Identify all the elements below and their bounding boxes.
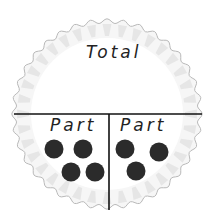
part-1-label: Part bbox=[50, 115, 96, 135]
counter bbox=[86, 163, 105, 182]
counter bbox=[74, 140, 93, 159]
total-label: Total bbox=[86, 42, 142, 62]
counter bbox=[150, 143, 169, 162]
counter bbox=[62, 163, 81, 182]
counter bbox=[116, 140, 135, 159]
plate-diagram bbox=[0, 0, 215, 219]
counter bbox=[45, 140, 64, 159]
part-2-label: Part bbox=[120, 115, 166, 135]
counter bbox=[127, 162, 146, 181]
